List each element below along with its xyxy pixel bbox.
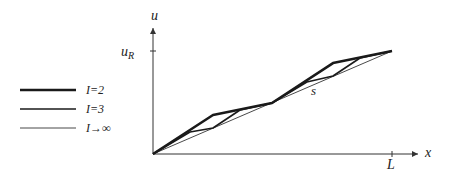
l-tick-label: L bbox=[386, 157, 395, 172]
legend-label-i-infinity: I→∞ bbox=[85, 121, 111, 135]
y-axis-label: u bbox=[151, 8, 158, 23]
legend-label-i-2: I=2 bbox=[85, 83, 104, 97]
s-annotation: s bbox=[311, 83, 316, 98]
legend: I=2 I=3 I→∞ bbox=[20, 83, 111, 135]
diagram-canvas: u uR x L s I=2 I=3 I→∞ bbox=[0, 0, 454, 180]
ur-tick-label: uR bbox=[121, 44, 134, 61]
x-axis-label: x bbox=[424, 145, 432, 160]
legend-label-i-3: I=3 bbox=[85, 102, 104, 116]
